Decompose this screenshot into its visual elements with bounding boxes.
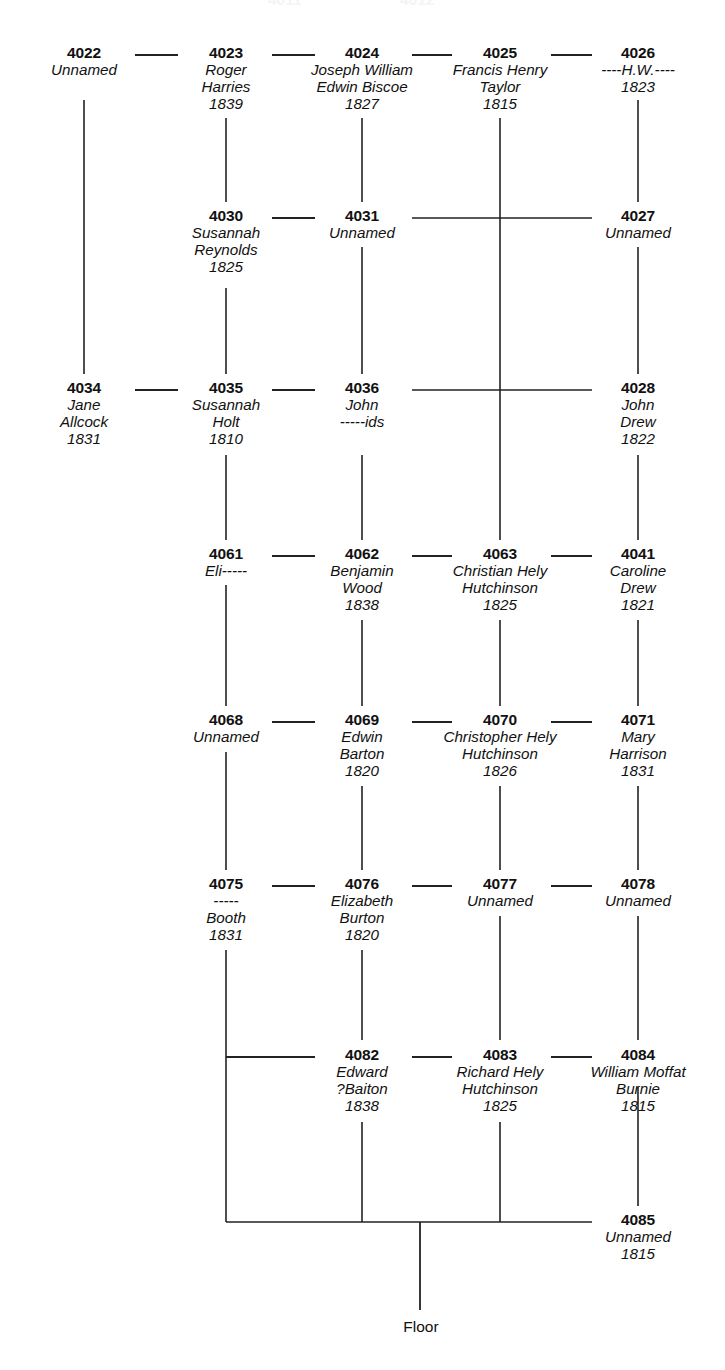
pedigree-node-4026[interactable]: 4026----H.W.----1823 xyxy=(601,44,675,95)
node-detail-line: Edwin xyxy=(340,728,385,745)
node-id: 4024 xyxy=(311,44,413,61)
pedigree-node-4025[interactable]: 4025Francis HenryTaylor1815 xyxy=(453,44,548,112)
node-detail-line: John xyxy=(340,396,385,413)
node-detail-line: Edward xyxy=(336,1063,388,1080)
node-detail-line: Richard Hely xyxy=(457,1063,544,1080)
node-id: 4068 xyxy=(193,711,259,728)
node-detail-line: ----H.W.---- xyxy=(601,61,675,78)
pedigree-node-4035[interactable]: 4035SusannahHolt1810 xyxy=(192,379,260,447)
node-detail-line: Drew xyxy=(620,413,655,430)
node-detail-line: Roger xyxy=(202,61,251,78)
pedigree-node-4068[interactable]: 4068Unnamed xyxy=(193,711,259,745)
node-detail-line: 1822 xyxy=(620,430,655,447)
node-id: 4026 xyxy=(601,44,675,61)
node-detail-line: 1827 xyxy=(311,95,413,112)
node-detail-line: Susannah xyxy=(192,396,260,413)
node-id: 4062 xyxy=(330,545,393,562)
node-detail-line: Unnamed xyxy=(605,892,671,909)
clipped-previous-row-fragment: 40114012 xyxy=(0,0,725,7)
node-id: 4036 xyxy=(340,379,385,396)
node-detail-line: Holt xyxy=(192,413,260,430)
pedigree-node-4084[interactable]: 4084William MoffatBurnie1815 xyxy=(590,1046,685,1114)
pedigree-node-4028[interactable]: 4028JohnDrew1822 xyxy=(620,379,655,447)
pedigree-node-4071[interactable]: 4071MaryHarrison1831 xyxy=(609,711,666,779)
pedigree-node-4022[interactable]: 4022Unnamed xyxy=(51,44,117,78)
node-detail-line: Jane xyxy=(60,396,108,413)
pedigree-node-4076[interactable]: 4076ElizabethBurton1820 xyxy=(331,875,393,943)
node-detail-line: Hutchinson xyxy=(443,745,556,762)
pedigree-node-4027[interactable]: 4027Unnamed xyxy=(605,207,671,241)
node-detail-line: 1838 xyxy=(336,1097,388,1114)
node-detail-line: Susannah xyxy=(192,224,260,241)
pedigree-node-4082[interactable]: 4082Edward?Baiton1838 xyxy=(336,1046,388,1114)
pedigree-node-4034[interactable]: 4034JaneAllcock1831 xyxy=(60,379,108,447)
pedigree-node-4077[interactable]: 4077Unnamed xyxy=(467,875,533,909)
pedigree-node-4031[interactable]: 4031Unnamed xyxy=(329,207,395,241)
node-id: 4078 xyxy=(605,875,671,892)
node-id: 4028 xyxy=(620,379,655,396)
node-detail-line: Christian Hely xyxy=(453,562,548,579)
node-id: 4077 xyxy=(467,875,533,892)
node-detail-line: 1825 xyxy=(457,1097,544,1114)
pedigree-node-4041[interactable]: 4041CarolineDrew1821 xyxy=(610,545,667,613)
node-detail-line: Unnamed xyxy=(51,61,117,78)
node-detail-line: Allcock xyxy=(60,413,108,430)
node-id: 4034 xyxy=(60,379,108,396)
node-detail-line: Caroline xyxy=(610,562,667,579)
pedigree-node-4023[interactable]: 4023RogerHarries1839 xyxy=(202,44,251,112)
node-id: 4031 xyxy=(329,207,395,224)
node-detail-line: Wood xyxy=(330,579,393,596)
node-detail-line: Harrison xyxy=(609,745,666,762)
node-detail-line: Joseph William xyxy=(311,61,413,78)
node-id: 4041 xyxy=(610,545,667,562)
node-detail-line: 1820 xyxy=(340,762,385,779)
node-detail-line: ?Baiton xyxy=(336,1080,388,1097)
node-detail-line: Burnie xyxy=(590,1080,685,1097)
pedigree-node-4030[interactable]: 4030SusannahReynolds1825 xyxy=(192,207,260,275)
node-detail-line: Hutchinson xyxy=(457,1080,544,1097)
node-detail-line: Hutchinson xyxy=(453,579,548,596)
connector-lines-layer xyxy=(0,0,725,1370)
node-detail-line: 1831 xyxy=(60,430,108,447)
node-detail-line: Mary xyxy=(609,728,666,745)
pedigree-node-4036[interactable]: 4036John-----ids xyxy=(340,379,385,430)
node-detail-line: Unnamed xyxy=(467,892,533,909)
node-detail-line: Harries xyxy=(202,78,251,95)
pedigree-node-4083[interactable]: 4083Richard HelyHutchinson1825 xyxy=(457,1046,544,1114)
node-detail-line: 1815 xyxy=(605,1245,671,1262)
node-detail-line: Barton xyxy=(340,745,385,762)
node-id: 4063 xyxy=(453,545,548,562)
pedigree-node-4061[interactable]: 4061Eli----- xyxy=(205,545,247,579)
pedigree-node-4075[interactable]: 4075-----Booth1831 xyxy=(206,875,246,943)
node-detail-line: 1839 xyxy=(202,95,251,112)
node-detail-line: 1838 xyxy=(330,596,393,613)
node-detail-line: 1825 xyxy=(453,596,548,613)
node-detail-line: 1823 xyxy=(601,78,675,95)
node-id: 4022 xyxy=(51,44,117,61)
pedigree-node-4062[interactable]: 4062BenjaminWood1838 xyxy=(330,545,393,613)
node-id: 4070 xyxy=(443,711,556,728)
node-detail-line: Taylor xyxy=(453,78,548,95)
node-detail-line: Burton xyxy=(331,909,393,926)
pedigree-node-4069[interactable]: 4069EdwinBarton1820 xyxy=(340,711,385,779)
node-id: 4076 xyxy=(331,875,393,892)
node-id: 4069 xyxy=(340,711,385,728)
node-id: 4027 xyxy=(605,207,671,224)
node-id: 4061 xyxy=(205,545,247,562)
pedigree-node-4024[interactable]: 4024Joseph WilliamEdwin Biscoe1827 xyxy=(311,44,413,112)
node-id: 4025 xyxy=(453,44,548,61)
node-detail-line: 1831 xyxy=(206,926,246,943)
pedigree-node-4078[interactable]: 4078Unnamed xyxy=(605,875,671,909)
node-detail-line: 1821 xyxy=(610,596,667,613)
pedigree-node-4070[interactable]: 4070Christopher HelyHutchinson1826 xyxy=(443,711,556,779)
node-detail-line: Unnamed xyxy=(329,224,395,241)
node-detail-line: 1831 xyxy=(609,762,666,779)
node-detail-line: Booth xyxy=(206,909,246,926)
pedigree-node-4085[interactable]: 4085Unnamed1815 xyxy=(605,1211,671,1262)
node-detail-line: Benjamin xyxy=(330,562,393,579)
clipped-node-id-fragment: 4011 xyxy=(268,0,302,7)
node-detail-line: Unnamed xyxy=(193,728,259,745)
node-id: 4083 xyxy=(457,1046,544,1063)
pedigree-node-4063[interactable]: 4063Christian HelyHutchinson1825 xyxy=(453,545,548,613)
node-detail-line: Eli----- xyxy=(205,562,247,579)
